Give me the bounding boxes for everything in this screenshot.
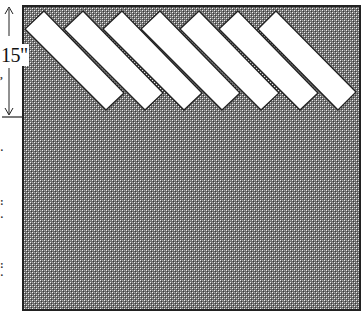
text-fragment-3: : [0, 196, 4, 207]
text-fragment-4: · [0, 212, 4, 223]
diagram-canvas [0, 0, 361, 316]
dimension-label: 15" [0, 44, 29, 66]
text-fragment-1: , [0, 70, 3, 81]
text-fragment-2: · [0, 145, 4, 156]
text-fragment-6: · [0, 270, 4, 281]
quilt-diagram: 15" ,·:·:· [0, 0, 361, 316]
